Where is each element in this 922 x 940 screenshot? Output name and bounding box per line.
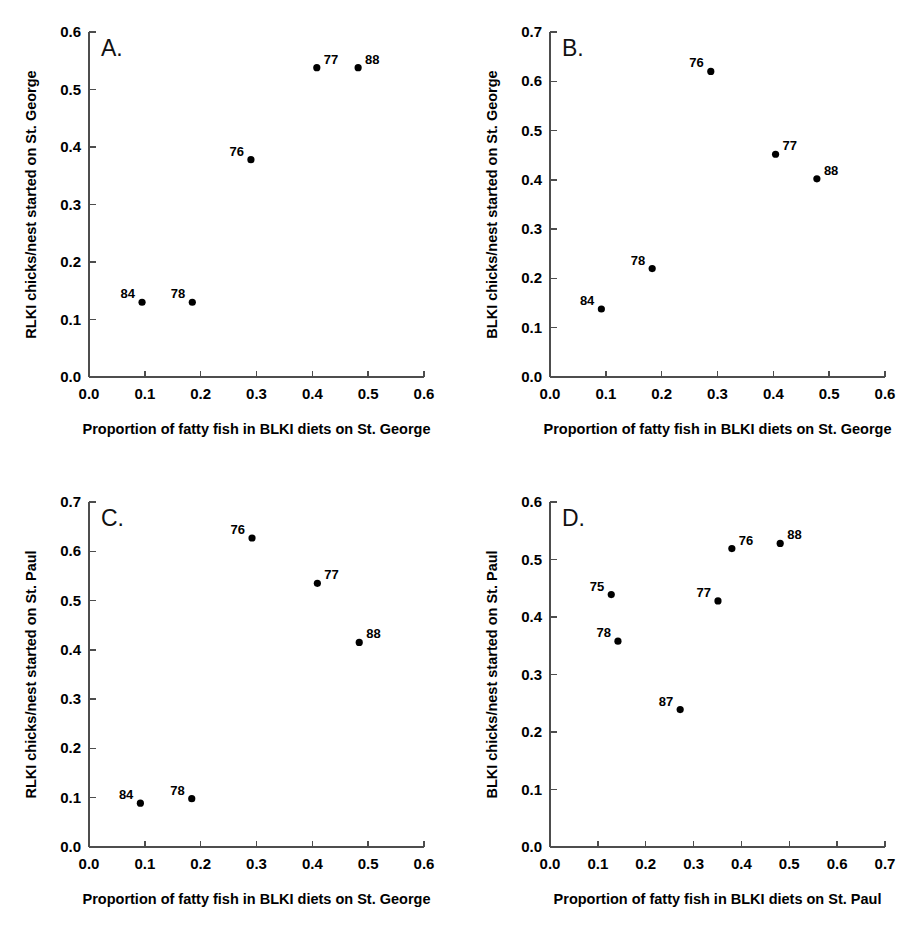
data-point: 77 (314, 567, 339, 587)
data-point-label: 78 (171, 286, 185, 301)
data-point-marker (707, 68, 714, 75)
x-tick-label: 0.2 (190, 855, 211, 872)
data-point-label: 78 (596, 625, 610, 640)
y-tick-label: 0.2 (60, 253, 81, 270)
y-axis-ticks: 0.00.10.20.30.40.50.6 (60, 23, 96, 385)
data-point-marker (598, 305, 605, 312)
data-point: 88 (356, 626, 381, 646)
data-point-marker (772, 151, 779, 158)
y-tick-label: 0.3 (521, 666, 542, 683)
data-point-label: 76 (689, 55, 703, 70)
x-tick-label: 0.2 (635, 855, 656, 872)
data-point: 88 (777, 527, 802, 547)
y-tick-label: 0.6 (521, 493, 542, 510)
x-tick-label: 0.1 (134, 385, 155, 402)
data-point-marker (247, 156, 254, 163)
data-point-marker (189, 299, 196, 306)
data-point-marker (137, 800, 144, 807)
x-tick-label: 0.6 (875, 385, 896, 402)
x-axis-title: Proportion of fatty fish in BLKI diets o… (83, 891, 431, 907)
y-tick-label: 0.7 (521, 23, 542, 40)
data-point-label: 88 (787, 527, 801, 542)
x-axis-title: Proportion of fatty fish in BLKI diets o… (83, 421, 431, 437)
x-axis-ticks: 0.00.10.20.30.40.50.6 (79, 841, 435, 872)
data-point: 77 (313, 52, 338, 72)
y-tick-label: 0.0 (60, 838, 81, 855)
data-point: 77 (697, 585, 722, 605)
axes (550, 32, 885, 377)
x-tick-label: 0.2 (190, 385, 211, 402)
data-point-label: 77 (324, 52, 338, 67)
data-point: 76 (231, 522, 256, 542)
data-point-marker (714, 597, 721, 604)
y-axis-title: BLKI chicks/nest started on St. George (484, 70, 500, 338)
data-point-marker (728, 545, 735, 552)
data-point: 88 (813, 163, 838, 183)
data-point: 78 (170, 783, 195, 803)
data-point-marker (138, 299, 145, 306)
data-point: 78 (631, 253, 656, 273)
x-axis-ticks: 0.00.10.20.30.40.50.6 (79, 371, 435, 402)
data-points: 8478767788 (121, 52, 380, 306)
data-point-label: 77 (697, 585, 711, 600)
y-tick-label: 0.4 (521, 171, 543, 188)
data-point-label: 76 (231, 522, 245, 537)
panel-letter: B. (562, 35, 584, 61)
y-tick-label: 0.3 (60, 690, 81, 707)
x-tick-label: 0.4 (731, 855, 753, 872)
x-tick-label: 0.0 (540, 385, 561, 402)
y-tick-label: 0.2 (521, 269, 542, 286)
data-point-marker (356, 639, 363, 646)
x-tick-label: 0.1 (134, 855, 155, 872)
data-point-marker (614, 638, 621, 645)
data-point: 76 (689, 55, 714, 75)
x-tick-label: 0.0 (540, 855, 561, 872)
data-points: 8478767788 (580, 55, 838, 312)
x-tick-label: 0.3 (246, 385, 267, 402)
x-tick-label: 0.6 (414, 855, 435, 872)
y-tick-label: 0.0 (521, 368, 542, 385)
data-point-marker (188, 795, 195, 802)
x-tick-label: 0.4 (302, 855, 324, 872)
x-tick-label: 0.2 (651, 385, 672, 402)
data-point-label: 84 (121, 286, 136, 301)
data-point: 78 (596, 625, 621, 645)
data-point-marker (677, 706, 684, 713)
data-point-label: 78 (631, 253, 645, 268)
data-point-label: 75 (590, 579, 604, 594)
x-tick-label: 0.7 (875, 855, 896, 872)
y-tick-label: 0.6 (521, 72, 542, 89)
data-point: 88 (355, 52, 380, 72)
x-tick-label: 0.4 (302, 385, 324, 402)
y-tick-label: 0.5 (60, 81, 81, 98)
data-point: 84 (121, 286, 146, 306)
data-point: 84 (580, 293, 605, 313)
y-tick-label: 0.1 (60, 311, 81, 328)
data-point-label: 78 (170, 783, 184, 798)
y-axis-ticks: 0.00.10.20.30.40.50.6 (521, 493, 557, 855)
chart-panel-a: 0.00.10.20.30.40.50.60.00.10.20.30.40.50… (0, 0, 461, 470)
data-point-label: 76 (739, 533, 753, 548)
y-tick-label: 0.7 (60, 493, 81, 510)
data-point: 77 (772, 138, 797, 158)
x-tick-label: 0.3 (246, 855, 267, 872)
data-point-marker (355, 64, 362, 71)
x-tick-label: 0.0 (79, 385, 100, 402)
y-axis-ticks: 0.00.10.20.30.40.50.60.7 (521, 23, 557, 385)
data-point-label: 77 (783, 138, 797, 153)
y-tick-label: 0.4 (60, 138, 82, 155)
x-tick-label: 0.3 (683, 855, 704, 872)
y-tick-label: 0.3 (521, 220, 542, 237)
data-point-label: 77 (324, 567, 338, 582)
data-point-label: 88 (366, 626, 380, 641)
y-tick-label: 0.5 (521, 122, 542, 139)
y-tick-label: 0.4 (60, 641, 82, 658)
y-tick-label: 0.2 (521, 723, 542, 740)
x-axis-title: Proportion of fatty fish in BLKI diets o… (554, 891, 882, 907)
data-point-marker (649, 265, 656, 272)
y-tick-label: 0.1 (521, 781, 542, 798)
chart-panel-c: 0.00.10.20.30.40.50.60.00.10.20.30.40.50… (0, 470, 461, 940)
x-tick-label: 0.0 (79, 855, 100, 872)
data-point-marker (314, 580, 321, 587)
axes (89, 32, 424, 377)
